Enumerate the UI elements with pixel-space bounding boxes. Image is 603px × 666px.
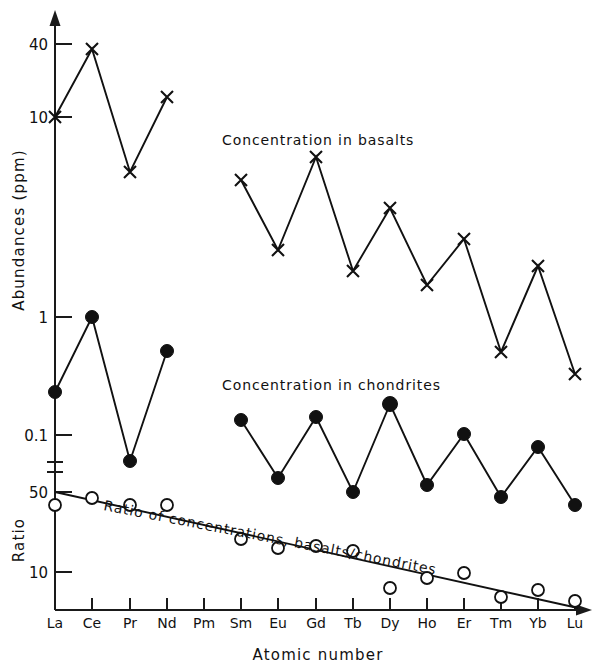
x-tick-label-yb: Yb [528,615,547,631]
basalts-marker-pr [124,166,136,178]
ratio-marker-yb [532,584,544,596]
series-ratio: Ratio of concentrations, basalts/chondri… [49,492,581,608]
y-tick-label-0.1: 0.1 [24,427,48,445]
x-tick-label-dy: Dy [380,615,399,631]
x-tick-label-ho: Ho [417,615,436,631]
x-tick-label-pm: Pm [193,615,215,631]
chondrites-marker-pr [124,455,137,468]
basalts-marker-er [458,233,470,245]
chondrites-line-right [241,404,575,505]
y-tick-label-10: 10 [29,109,48,127]
y-tick-label-ratio-10: 10 [29,564,48,582]
chondrites-marker-tb [347,486,360,499]
y-ticks-lower: 50 10 [29,484,72,582]
chondrites-marker-tm [495,491,508,504]
basalts-marker-yb [532,260,544,272]
chondrites-markers [49,311,582,512]
basalts-marker-ce [86,43,98,55]
basalts-marker-gd [310,151,322,163]
chondrites-marker-ce [86,311,99,324]
basalts-marker-dy [384,202,396,214]
chondrites-marker-sm [235,414,248,427]
x-tick-label-sm: Sm [230,615,253,631]
y-tick-label-1: 1 [38,309,48,327]
basalts-marker-tb [347,265,359,277]
chondrites-marker-yb [532,441,545,454]
x-tick-label-tm: Tm [489,615,512,631]
annotation-chondrites: Concentration in chondrites [222,377,441,393]
chondrites-marker-nd [161,345,174,358]
ratio-marker-lu [569,595,581,607]
chondrites-line-left [55,317,167,461]
ratio-marker-tm [495,591,507,603]
series-basalts: Concentration in basalts [49,43,581,380]
basalts-marker-eu [272,244,284,256]
x-tick-label-er: Er [457,615,472,631]
basalts-line-left [55,49,167,172]
y-axis-arrowhead [50,10,61,26]
chondrites-marker-gd [310,411,323,424]
chondrites-marker-eu [272,472,285,485]
x-tick-label-pr: Pr [123,615,137,631]
y-tick-label-50: 50 [29,484,48,502]
basalts-marker-tm [495,346,507,358]
chondrites-marker-la [49,386,62,399]
axis-group [47,10,592,616]
x-tick-label-la: La [47,615,63,631]
annotation-basalts: Concentration in basalts [222,132,414,148]
x-axis-title: Atomic number [253,646,384,664]
rare-earth-abundance-chart: 40 10 1 0.1 50 10 Abundances (ppm) Ratio… [0,0,603,666]
x-tick-label-ce: Ce [83,615,101,631]
ratio-marker-er [458,567,470,579]
basalts-line-right [241,157,575,374]
ratio-marker-ce [86,492,98,504]
chart-canvas: 40 10 1 0.1 50 10 Abundances (ppm) Ratio… [0,0,603,666]
ratio-marker-la [49,499,61,511]
chondrites-marker-lu [569,499,582,512]
x-tick-label-lu: Lu [567,615,583,631]
y-axis-title-upper: Abundances (ppm) [10,149,28,311]
basalts-marker-lu [569,368,581,380]
x-tick-label-gd: Gd [306,615,326,631]
x-tick-label-nd: Nd [157,615,176,631]
basalts-marker-sm [235,174,247,186]
annotation-ratio: Ratio of concentrations, basalts/chondri… [102,497,438,577]
chondrites-marker-dy [383,397,398,412]
basalts-marker-ho [421,279,433,291]
basalts-markers [49,43,581,380]
chondrites-marker-ho [421,479,434,492]
chondrites-marker-er [458,428,471,441]
ratio-marker-dy [384,582,396,594]
series-chondrites: Concentration in chondrites [49,311,582,512]
y-tick-label-40: 40 [29,36,48,54]
basalts-marker-nd [161,91,173,103]
x-tick-label-tb: Tb [343,615,362,631]
y-axis-title-lower: Ratio [10,518,28,563]
x-tick-label-eu: Eu [269,615,287,631]
